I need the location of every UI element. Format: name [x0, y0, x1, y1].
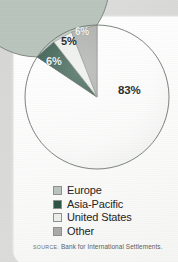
legend-swatch-europe [53, 186, 62, 195]
legend-item-united-states[interactable]: United States [53, 211, 132, 225]
legend-swatch-asia-pacific [53, 200, 62, 209]
legend-item-other[interactable]: Other [53, 225, 132, 239]
legend-label-asia-pacific: Asia-Pacific [67, 199, 123, 210]
legend-label-europe: Europe [67, 185, 102, 196]
legend-item-asia-pacific[interactable]: Asia-Pacific [53, 198, 132, 212]
legend-swatch-united-states [53, 213, 62, 222]
pie-label-asia-pacific: 6% [46, 55, 62, 67]
legend-label-united-states: United States [67, 212, 132, 223]
legend-item-europe[interactable]: Europe [53, 184, 132, 198]
pie-label-united-states: 5% [61, 35, 77, 47]
legend-swatch-other [53, 227, 62, 236]
pie-label-other: 6% [75, 26, 89, 37]
chart-figure: 6% 5% 6% 83% Europe Asia-Pacific United … [0, 0, 178, 262]
pie-label-europe: 83% [118, 84, 140, 96]
source-kicker: SOURCE: [33, 244, 59, 250]
source-text: Bank for International Settlements. [61, 243, 163, 250]
legend-label-other: Other [67, 226, 94, 237]
chart-legend: Europe Asia-Pacific United States Other [53, 184, 132, 238]
pie-outline [25, 25, 169, 169]
chart-source: SOURCE: Bank for International Settlemen… [33, 243, 163, 250]
